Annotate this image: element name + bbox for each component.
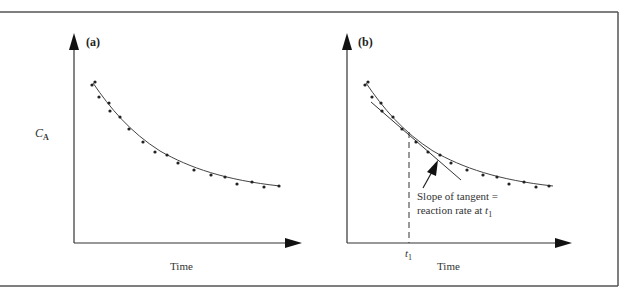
x-axis-label: Time [437, 260, 460, 272]
ylabel-sub: A [43, 133, 49, 142]
panel-a-label: (a) [86, 35, 100, 50]
y-axis [342, 33, 352, 243]
x-axis-arrow-icon [555, 238, 572, 248]
tangent-annotation: Slope of tangent = reaction rate at t1 [417, 189, 498, 222]
t1-tick-label: t1 [405, 247, 412, 262]
annotation-line-2: reaction rate at t1 [417, 203, 498, 222]
figure: (a) CA Time (b) t1 Time Slope of tangent… [0, 0, 637, 302]
y-axis-label: CA [35, 126, 49, 142]
panel-b-label: (b) [358, 35, 373, 50]
fit-curve [366, 83, 553, 186]
panel-a [69, 33, 302, 248]
figure-frame [0, 12, 618, 286]
annotation-line-1: Slope of tangent = [417, 189, 498, 203]
data-points [363, 80, 550, 188]
tick-sub: 1 [408, 253, 412, 262]
x-axis [74, 238, 302, 248]
annotation-arrow-icon [423, 160, 438, 188]
annotation-line-2-sub: 1 [488, 210, 492, 219]
annotation-line-2-main: reaction rate at t [417, 204, 488, 216]
fit-curve [93, 83, 280, 186]
y-axis-arrow-icon [342, 33, 352, 50]
x-axis [347, 238, 572, 248]
x-axis-arrow-icon [285, 238, 302, 248]
y-axis [69, 33, 79, 243]
y-axis-arrow-icon [69, 33, 79, 50]
x-axis-label: Time [170, 260, 193, 272]
ylabel-main: C [35, 126, 43, 140]
data-points [90, 80, 280, 188]
